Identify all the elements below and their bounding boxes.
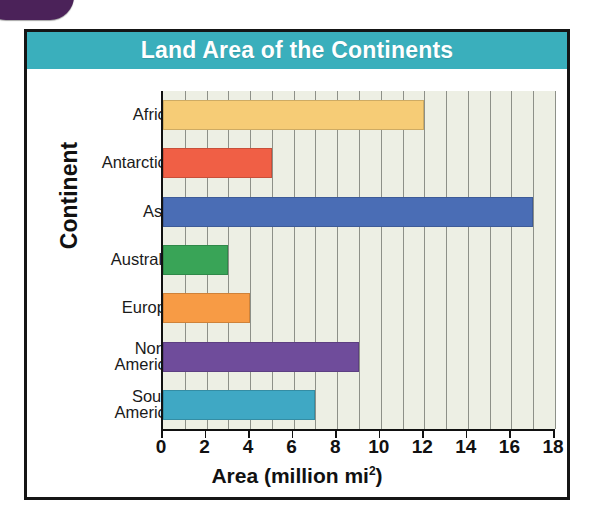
plot-area bbox=[161, 91, 555, 431]
y-tick-label-south-america: SouthAmerica bbox=[73, 388, 175, 420]
bar-fill bbox=[163, 148, 272, 178]
x-tick-label: 8 bbox=[330, 436, 341, 458]
gridline bbox=[272, 91, 273, 429]
bar-fill bbox=[163, 197, 533, 227]
decorative-corner-tab bbox=[0, 0, 74, 20]
bar-fill bbox=[163, 390, 315, 420]
gridline bbox=[381, 91, 382, 429]
gridline bbox=[533, 91, 534, 429]
bar-africa bbox=[163, 100, 424, 130]
gridline bbox=[511, 91, 512, 429]
bar-europe bbox=[163, 293, 250, 323]
bar-antarctica bbox=[163, 148, 272, 178]
y-axis-tick-labels: AfricaAntarcticaAsiaAustraliaEuropeNorth… bbox=[73, 91, 175, 429]
x-tick-label: 2 bbox=[199, 436, 210, 458]
y-tick-label-antarctica: Antarctica bbox=[73, 154, 175, 170]
gridline bbox=[446, 91, 447, 429]
gridline bbox=[555, 91, 556, 429]
gridline bbox=[250, 91, 251, 429]
x-tick-label: 0 bbox=[156, 436, 167, 458]
chart-figure: Land Area of the Continents Continent Af… bbox=[24, 29, 570, 500]
x-tick-label: 18 bbox=[542, 436, 563, 458]
x-tick-label: 6 bbox=[286, 436, 297, 458]
gridline bbox=[359, 91, 360, 429]
bar-asia bbox=[163, 197, 533, 227]
y-tick-label-africa: Africa bbox=[73, 106, 175, 122]
y-tick-label-europe: Europe bbox=[73, 299, 175, 315]
bar-fill bbox=[163, 245, 228, 275]
x-tick-label: 16 bbox=[499, 436, 520, 458]
x-tick-label: 10 bbox=[368, 436, 389, 458]
bar-north-america bbox=[163, 342, 359, 372]
gridline bbox=[403, 91, 404, 429]
y-tick-label-asia: Asia bbox=[73, 203, 175, 219]
gridline bbox=[337, 91, 338, 429]
gridline bbox=[468, 91, 469, 429]
chart-title-bar: Land Area of the Continents bbox=[27, 32, 567, 69]
y-tick-label-australia: Australia bbox=[73, 251, 175, 267]
x-axis-tick-labels: 024681012141618 bbox=[161, 436, 555, 462]
gridline bbox=[315, 91, 316, 429]
bar-fill bbox=[163, 342, 359, 372]
y-tick-label-north-america: NorthAmerica bbox=[73, 340, 175, 372]
gridline bbox=[490, 91, 491, 429]
gridline bbox=[424, 91, 425, 429]
bar-fill bbox=[163, 100, 424, 130]
x-axis-title-exponent: 2 bbox=[369, 464, 376, 478]
bar-fill bbox=[163, 293, 250, 323]
gridline bbox=[294, 91, 295, 429]
x-tick-label: 14 bbox=[455, 436, 476, 458]
gridline bbox=[228, 91, 229, 429]
bar-south-america bbox=[163, 390, 315, 420]
x-tick-label: 12 bbox=[412, 436, 433, 458]
chart-title: Land Area of the Continents bbox=[141, 37, 454, 64]
x-tick-label: 4 bbox=[243, 436, 254, 458]
bar-australia bbox=[163, 245, 228, 275]
x-axis-title: Area (million mi2) bbox=[27, 464, 567, 488]
